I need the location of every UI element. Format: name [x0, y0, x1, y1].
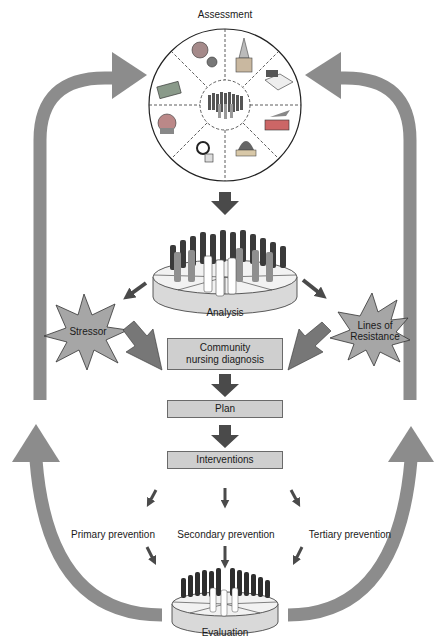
communication-telephone-icon [158, 114, 176, 134]
lines-of-resistance-line2: Resistance [338, 331, 412, 342]
arrow-to-primary [149, 490, 156, 503]
analysis-disc [153, 230, 297, 314]
arrow-primary-to-evaluation [147, 547, 154, 561]
lines-of-resistance-line1: Lines of [338, 320, 412, 331]
stressor-label: Stressor [56, 326, 120, 337]
community-nursing-diagnosis-box: Community nursing diagnosis [167, 338, 283, 370]
plan-label: Plan [215, 403, 235, 415]
primary-prevention-label: Primary prevention [58, 529, 168, 540]
arrow-analysis-to-resistance [303, 280, 322, 295]
analysis-label: Analysis [185, 307, 265, 318]
feedback-loop-arrow-left-lower [12, 424, 162, 615]
diagnosis-line1: Community [200, 342, 251, 354]
tertiary-prevention-label: Tertiary prevention [298, 529, 402, 540]
interventions-box: Interventions [167, 451, 283, 469]
diagnosis-line2: nursing diagnosis [186, 354, 264, 366]
evaluation-disc [172, 568, 278, 634]
arrow-assessment-to-analysis [211, 192, 239, 215]
secondary-prevention-label: Secondary prevention [170, 529, 282, 540]
lines-of-resistance-label: Lines of Resistance [338, 320, 412, 342]
feedback-loop-arrow-right-lower [288, 426, 434, 615]
plan-box: Plan [167, 400, 283, 418]
arrow-plan-to-interventions [211, 425, 239, 448]
arrow-tertiary-to-evaluation [295, 547, 302, 561]
interventions-label: Interventions [196, 454, 253, 466]
arrow-analysis-to-stressor [128, 283, 146, 296]
arrow-resistance-to-diagnosis [288, 322, 331, 370]
arrow-diagnosis-to-plan [211, 374, 239, 397]
arrow-stressor-to-diagnosis [123, 321, 162, 370]
evaluation-label: Evaluation [185, 627, 265, 638]
arrow-to-tertiary [291, 490, 298, 503]
assessment-wheel [149, 29, 301, 181]
assessment-title: Assessment [185, 9, 265, 20]
